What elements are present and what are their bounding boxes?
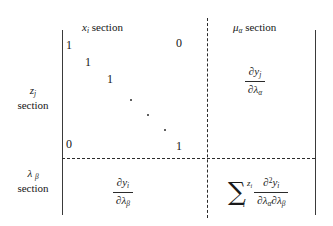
row-label-z-subscript: j xyxy=(34,89,36,98)
fraction-denominator: ∂λα xyxy=(245,82,265,98)
row-label-z-symbol-line: zj xyxy=(8,85,58,98)
matrix-entry: 1 xyxy=(66,38,72,53)
cell-top-right-fraction: ∂yj ∂λα xyxy=(245,65,265,97)
column-header-x-subscript: i xyxy=(87,26,89,35)
denominator-subscript: β xyxy=(126,199,130,208)
summation-index: i xyxy=(243,200,245,209)
horizontal-dashed-separator xyxy=(62,158,315,159)
cell-bottom-right-summation: ∑ i zi ∂2yi ∂λα∂λβ xyxy=(228,176,288,208)
diagonal-ellipsis-dot xyxy=(130,99,132,101)
matrix-entry: 1 xyxy=(85,55,91,70)
fraction-numerator: ∂2yi xyxy=(254,176,288,193)
matrix-right-delimiter xyxy=(315,30,316,215)
matrix-entry: 0 xyxy=(66,137,72,152)
row-label-lambda-section: λ β section xyxy=(8,168,58,194)
matrix-entry: 1 xyxy=(176,139,182,154)
row-label-lambda-subscript: β xyxy=(35,172,39,181)
fraction-numerator: ∂yi xyxy=(113,176,133,193)
column-header-x-label: section xyxy=(92,21,123,33)
cell-bottom-left-fraction: ∂yi ∂λβ xyxy=(113,176,133,208)
row-label-lambda-text: section xyxy=(8,183,58,194)
row-label-lambda-symbol-line: λ β xyxy=(8,168,58,181)
vertical-dashed-separator xyxy=(207,18,208,218)
diagonal-ellipsis-dot xyxy=(147,114,149,116)
fraction-denominator: ∂λα∂λβ xyxy=(254,193,288,209)
column-header-x-section: xi section xyxy=(82,22,123,35)
second-derivative-fraction: ∂2yi ∂λα∂λβ xyxy=(254,176,288,208)
numerator-subscript: j xyxy=(259,70,261,79)
summation-factor: zi xyxy=(247,178,252,189)
diagonal-ellipsis-dot xyxy=(164,129,166,131)
row-label-z-section: zj section xyxy=(8,85,58,111)
fraction-numerator: ∂yj xyxy=(245,65,265,82)
column-header-mu-subscript: α xyxy=(239,26,243,35)
denominator-subscript-second: β xyxy=(282,199,286,208)
row-label-z-text: section xyxy=(8,100,58,111)
matrix-entry: 0 xyxy=(176,36,182,51)
column-header-mu-label: section xyxy=(245,21,276,33)
summation-sigma-icon: ∑ xyxy=(228,182,246,202)
row-label-lambda-symbol: λ xyxy=(27,167,32,179)
numerator-subscript: i xyxy=(277,181,279,190)
block-matrix-diagram: xi section μα section zj section λ β sec… xyxy=(0,0,333,226)
summation-factor-subscript: i xyxy=(251,183,253,189)
fraction-denominator: ∂λβ xyxy=(113,193,133,209)
matrix-left-delimiter xyxy=(62,30,63,215)
matrix-entry: 1 xyxy=(107,72,113,87)
column-header-mu-section: μα section xyxy=(233,22,276,35)
numerator-subscript: i xyxy=(127,181,129,190)
denominator-subscript: α xyxy=(258,88,262,97)
